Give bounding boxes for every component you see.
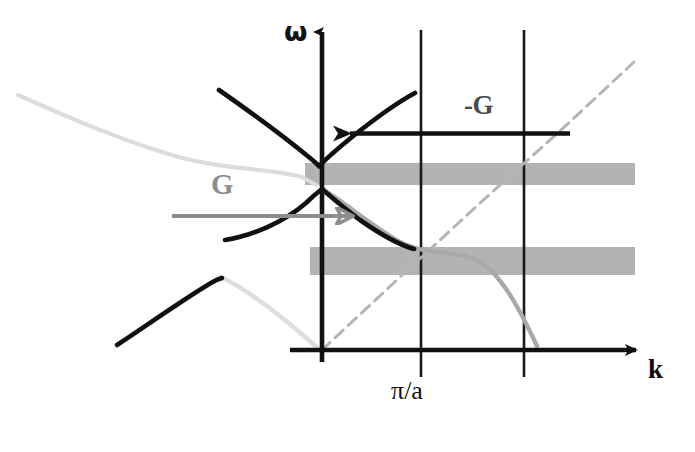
lowest-band-light-curve xyxy=(221,277,319,349)
upper-gap-band xyxy=(305,163,635,185)
k-axis-label: k xyxy=(648,356,663,383)
band-structure-figure: ω k π/a -G G xyxy=(0,0,695,452)
omega-axis-label: ω xyxy=(284,18,307,45)
lower-gap-band xyxy=(310,247,635,275)
neg-g-label: -G xyxy=(464,92,493,119)
lowest-band-dark-curve xyxy=(117,278,222,345)
lower-band-dark-curve xyxy=(225,189,414,249)
upper-band-dark-curve xyxy=(219,90,415,166)
upper-band-light-curve xyxy=(18,95,316,185)
tick-label-pi-over-a: π/a xyxy=(391,378,423,404)
zone-lines-group xyxy=(421,30,524,377)
dispersion-plot-canvas xyxy=(0,0,695,452)
g-label: G xyxy=(211,170,234,199)
